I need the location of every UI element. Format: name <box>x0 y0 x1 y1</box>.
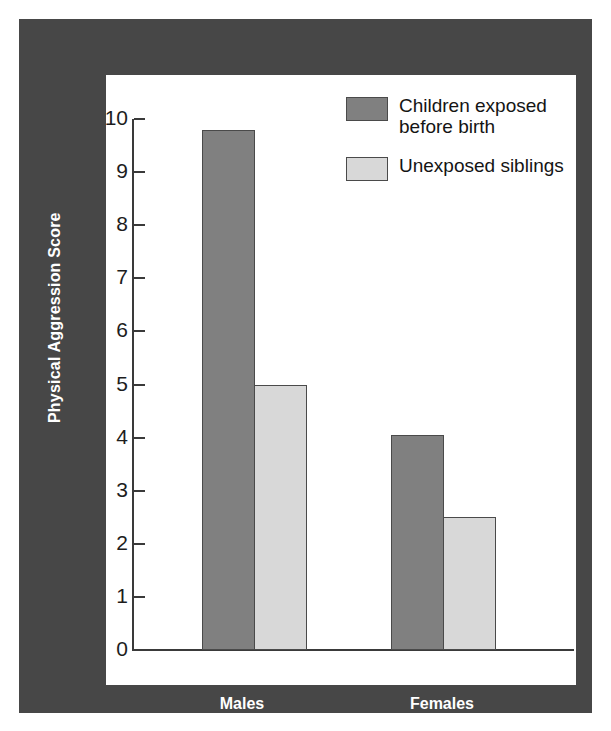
legend-label-unexposed: Unexposed siblings <box>399 155 564 176</box>
legend-swatch-unexposed <box>346 157 388 181</box>
legend-item-exposed: Children exposed before birth <box>346 95 564 138</box>
bar-males-exposed <box>202 130 255 650</box>
bar-males-unexposed <box>254 385 307 651</box>
chart-frame: Physical Aggression Score Males Females … <box>19 19 592 713</box>
chart-legend: Children exposed before birth Unexposed … <box>346 95 564 198</box>
legend-label-exposed: Children exposed before birth <box>399 95 547 138</box>
chart-figure: Physical Aggression Score Males Females … <box>0 0 611 731</box>
bar-females-unexposed <box>443 517 496 650</box>
bar-females-exposed <box>391 435 444 650</box>
y-axis-title: Physical Aggression Score <box>46 223 64 423</box>
legend-swatch-exposed <box>346 97 388 121</box>
x-category-label-males: Males <box>177 695 307 713</box>
x-category-label-females: Females <box>377 695 507 713</box>
legend-item-unexposed: Unexposed siblings <box>346 155 564 181</box>
plot-area: 012345678910 Children exposed before bir… <box>106 75 576 685</box>
